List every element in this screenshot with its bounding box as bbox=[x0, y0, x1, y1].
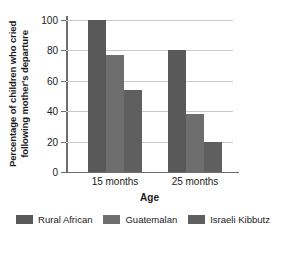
bar bbox=[106, 55, 124, 172]
bar bbox=[88, 20, 106, 172]
legend-label: Rural African bbox=[38, 214, 92, 225]
bar bbox=[204, 142, 222, 172]
legend-swatch bbox=[16, 215, 33, 224]
legend-swatch bbox=[188, 215, 205, 224]
legend-item: Israeli Kibbutz bbox=[188, 214, 270, 225]
y-tick-label: 20 bbox=[47, 136, 58, 147]
bar-group bbox=[168, 20, 222, 172]
plot-area: 020406080100 15 months25 months bbox=[66, 20, 233, 172]
x-axis-title: Age bbox=[66, 192, 233, 203]
y-tick-label: 60 bbox=[47, 75, 58, 86]
chart-legend: Rural AfricanGuatemalanIsraeli Kibbutz bbox=[0, 214, 286, 225]
y-tick-label: 100 bbox=[41, 15, 58, 26]
bar bbox=[168, 50, 186, 172]
y-tick-label: 0 bbox=[52, 167, 58, 178]
x-tick-label: 25 months bbox=[168, 176, 222, 187]
y-axis-title-line-1: Percentage of children who cried bbox=[7, 21, 18, 167]
legend-label: Israeli Kibbutz bbox=[210, 214, 270, 225]
y-axis-title-text: Percentage of children who cried followi… bbox=[7, 21, 31, 167]
y-axis-title: Percentage of children who cried followi… bbox=[2, 14, 36, 174]
bar-chart: Percentage of children who cried followi… bbox=[0, 0, 286, 257]
y-tick-label: 40 bbox=[47, 106, 58, 117]
x-tick-label: 15 months bbox=[88, 176, 142, 187]
bar-group bbox=[88, 20, 142, 172]
bar bbox=[124, 90, 142, 172]
y-axis-title-line-2: following mother's departure bbox=[19, 30, 30, 158]
legend-item: Rural African bbox=[16, 214, 92, 225]
legend-label: Guatemalan bbox=[125, 214, 177, 225]
legend-swatch bbox=[103, 215, 120, 224]
y-tick-label: 80 bbox=[47, 45, 58, 56]
y-tick-mark bbox=[61, 172, 66, 173]
bars-layer bbox=[66, 20, 233, 172]
legend-item: Guatemalan bbox=[103, 214, 177, 225]
bar bbox=[186, 114, 204, 172]
